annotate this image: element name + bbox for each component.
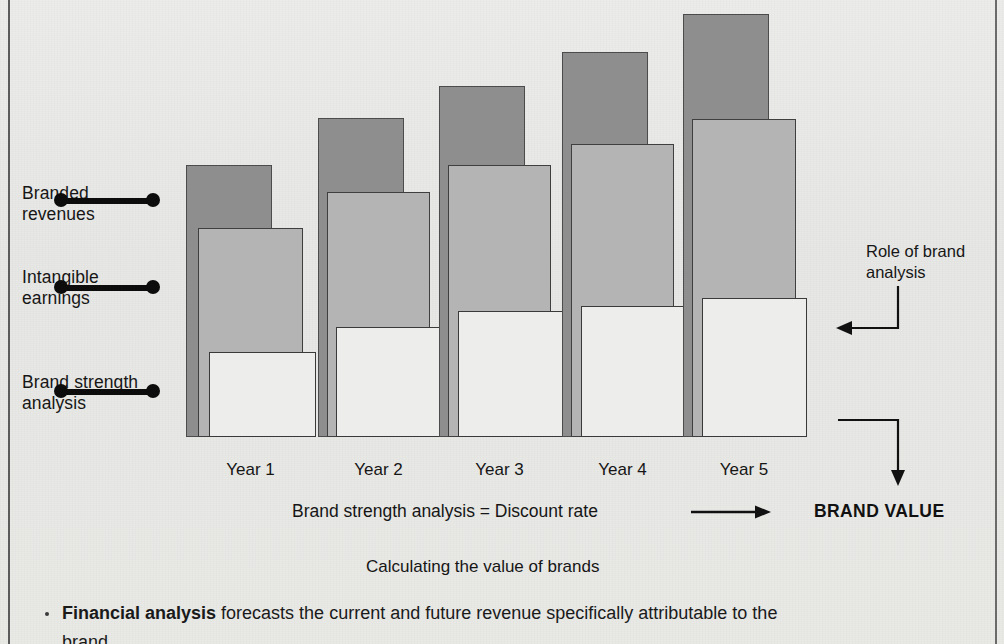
elbow-arrow-down-icon [830,418,950,490]
x-tick-label-year-1: Year 1 [196,460,306,480]
connector-branded-revenues [54,193,160,207]
role-of-brand-analysis-label: Role of brand analysis [866,241,965,283]
bullet-item-financial-analysis: Financial analysis forecasts the current… [62,600,777,626]
x-tick-label-year-4: Year 4 [568,460,678,480]
brand-value-label: BRAND VALUE [814,501,944,522]
arrow-right-icon [689,500,779,524]
brand-valuation-chart: Branded revenues Intangible earnings Bra… [0,0,1004,644]
equation-label: Brand strength analysis = Discount rate [292,501,598,522]
x-tick-label-year-3: Year 3 [445,460,555,480]
bullet-rest: forecasts the current and future revenue… [216,603,777,623]
bullet-item-continuation: brand [62,629,108,644]
connector-rod [60,285,154,291]
bullet-marker-icon [45,612,49,616]
connector-dot-right [146,280,160,294]
bar-brand-strength-analysis-year-5 [702,298,807,437]
connector-brand-strength-analysis [54,384,160,398]
bar-brand-strength-analysis-year-4 [581,306,686,437]
elbow-arrow-left-icon [830,284,950,346]
bar-brand-strength-analysis-year-2 [336,327,440,437]
connector-rod [60,389,154,395]
connector-dot-right [146,384,160,398]
figure-caption: Calculating the value of brands [366,557,599,577]
connector-rod [60,198,154,204]
connector-intangible-earnings [54,280,160,294]
x-tick-label-year-2: Year 2 [324,460,434,480]
bar-brand-strength-analysis-year-3 [458,311,563,437]
bullet-bold-lead: Financial analysis [62,603,216,623]
x-tick-label-year-5: Year 5 [689,460,799,480]
bar-brand-strength-analysis-year-1 [209,352,316,437]
connector-dot-right [146,193,160,207]
